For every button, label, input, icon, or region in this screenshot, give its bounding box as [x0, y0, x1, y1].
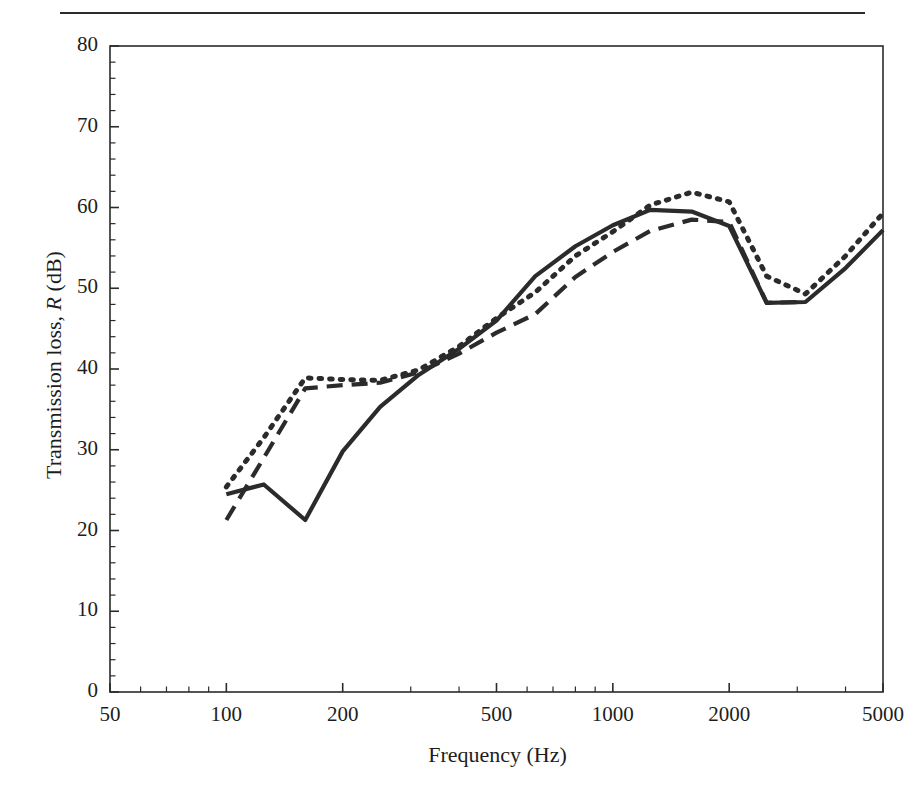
- y-tick-label: 20: [24, 517, 98, 542]
- y-tick-label: 40: [24, 355, 98, 380]
- plot-frame: [110, 46, 883, 692]
- series-line-dashed: [226, 220, 805, 520]
- x-tick-label: 200: [298, 702, 388, 727]
- x-axis-title: Frequency (Hz): [110, 742, 885, 768]
- x-tick-label: 500: [452, 702, 542, 727]
- y-tick-label: 0: [24, 678, 98, 703]
- figure-container: Transmission loss, R (dB) Frequency (Hz)…: [0, 0, 924, 800]
- x-tick-label: 5000: [838, 702, 924, 727]
- y-tick-label: 10: [24, 597, 98, 622]
- y-tick-label: 30: [24, 436, 98, 461]
- series-line-solid: [226, 210, 883, 520]
- y-tick-label: 50: [24, 274, 98, 299]
- x-tick-label: 50: [65, 702, 155, 727]
- series-line-dotted: [226, 192, 883, 487]
- y-tick-label: 80: [24, 32, 98, 57]
- x-tick-label: 2000: [684, 702, 774, 727]
- y-tick-label: 60: [24, 194, 98, 219]
- chart-plot-area: [0, 0, 924, 800]
- x-tick-label: 1000: [568, 702, 658, 727]
- x-tick-label: 100: [181, 702, 271, 727]
- y-tick-label: 70: [24, 113, 98, 138]
